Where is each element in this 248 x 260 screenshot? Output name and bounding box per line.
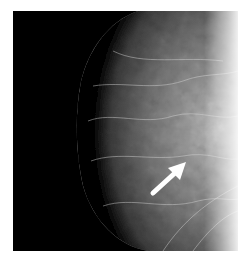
- arrow-icon: [13, 11, 238, 251]
- mammogram-image: [13, 11, 238, 251]
